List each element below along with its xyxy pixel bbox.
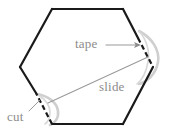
diagram-canvas <box>0 0 172 138</box>
tape-arrow <box>106 42 141 48</box>
label-slide: slide <box>99 80 125 93</box>
label-tape: tape <box>75 37 97 50</box>
slide-line <box>48 57 148 103</box>
label-cut: cut <box>7 110 23 123</box>
hexagon-outline <box>20 9 153 124</box>
cut-leader-line <box>29 99 41 111</box>
hexagon-fold-diagram: tape slide cut <box>0 0 172 138</box>
